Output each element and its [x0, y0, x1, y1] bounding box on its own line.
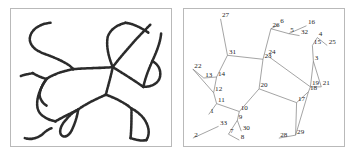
road-stroke-center-lower: [78, 95, 106, 110]
graph-node-label-26: 26: [272, 21, 280, 29]
graph-node-label-31: 31: [229, 48, 237, 56]
graph-edge-7-8: [228, 134, 239, 140]
figure-root: 1234567891011121314151617181920212223242…: [0, 0, 355, 153]
graph-node-label-14: 14: [218, 70, 226, 78]
road-stroke-bottom-right-box2: [131, 109, 148, 141]
road-stroke-center-stem: [106, 67, 113, 95]
graph-node-label-6: 6: [280, 17, 284, 25]
graph-node-label-15: 15: [314, 38, 322, 46]
graph-node-label-1: 1: [210, 107, 214, 115]
graph-node-label-17: 17: [298, 95, 306, 103]
road-stroke-upper-spine: [73, 67, 113, 69]
graph-edge-26-5: [271, 29, 289, 34]
graph-node-label-21: 21: [323, 79, 331, 87]
graph-label-layer: 1234567891011121314151617181920212223242…: [194, 11, 336, 140]
graph-edge-layer: [193, 19, 327, 140]
graph-edge-9-30: [237, 120, 241, 131]
graph-edge-20-17: [259, 89, 297, 103]
graph-edge-11-10: [217, 104, 240, 112]
graph-node-label-16: 16: [308, 18, 316, 26]
graph-node-label-10: 10: [241, 104, 249, 112]
graph-node-label-29: 29: [297, 128, 305, 136]
graph-node-label-9: 9: [239, 113, 243, 121]
graph-node-label-3: 3: [315, 54, 319, 62]
graph-node-label-12: 12: [215, 85, 223, 93]
graph-edge-13-22: [193, 69, 204, 78]
road-stroke-center-right-lower: [106, 95, 132, 109]
hand-drawn-network-svg: [11, 9, 171, 146]
graph-edge-27-31: [221, 19, 228, 55]
road-strokes: [21, 23, 161, 141]
road-stroke-left-small: [21, 73, 33, 76]
graph-node-label-27: 27: [222, 11, 230, 19]
graph-node-label-5: 5: [290, 26, 294, 34]
graph-node-label-4: 4: [319, 30, 323, 38]
graph-node-label-22: 22: [194, 62, 202, 70]
graph-node-label-33: 33: [220, 119, 228, 127]
graph-node-label-24: 24: [268, 48, 276, 56]
graph-edge-15-3: [312, 45, 313, 61]
graph-node-label-7: 7: [230, 127, 234, 135]
road-stroke-bottom-left-arc: [25, 128, 52, 139]
road-stroke-bottom-right-box: [131, 109, 132, 139]
graph-node-label-25: 25: [329, 38, 337, 46]
panel-numbered-graph: 1234567891011121314151617181920212223242…: [183, 8, 345, 147]
graph-edge-31-23: [227, 55, 263, 59]
graph-node-label-32: 32: [301, 28, 309, 36]
numbered-graph-svg: 1234567891011121314151617181920212223242…: [184, 9, 344, 146]
graph-node-label-2: 2: [194, 131, 198, 139]
graph-edge-24-19: [267, 55, 310, 87]
road-stroke-top-right-cross2: [113, 25, 151, 67]
road-stroke-right-branch: [113, 67, 144, 87]
graph-edge-12-11: [214, 93, 217, 104]
graph-node-label-13: 13: [205, 71, 213, 79]
graph-node-label-11: 11: [218, 96, 225, 104]
road-stroke-bottom-right-close: [131, 138, 147, 140]
road-stroke-top-left-hook: [30, 23, 73, 69]
graph-node-label-8: 8: [241, 133, 245, 141]
graph-node-label-28: 28: [280, 131, 288, 139]
graph-node-label-20: 20: [261, 81, 269, 89]
graph-node-label-19: 19: [312, 79, 320, 87]
panel-hand-drawn-map: [10, 8, 172, 147]
graph-node-label-30: 30: [243, 124, 251, 132]
road-stroke-left-loop-top: [33, 73, 47, 79]
road-stroke-left-upper-branch: [47, 69, 74, 79]
